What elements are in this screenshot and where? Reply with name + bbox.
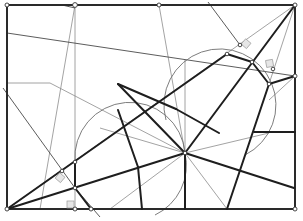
crease-fold-b bbox=[176, 109, 219, 133]
point-bottom-left bbox=[5, 207, 9, 211]
point-bottom-right bbox=[293, 207, 297, 211]
point-bottom-h bbox=[89, 207, 93, 211]
crease-corner-hub bbox=[185, 5, 295, 153]
point-left-vertex-2 bbox=[73, 186, 77, 190]
point-top-c bbox=[157, 3, 161, 7]
crease-hub-right bbox=[185, 153, 294, 188]
point-upper-foot-1 bbox=[238, 43, 242, 47]
point-bottom-g bbox=[73, 207, 77, 211]
point-top-b bbox=[73, 3, 78, 8]
point-upper-foot-2 bbox=[271, 67, 275, 71]
point-hub bbox=[183, 151, 187, 155]
crease-upper bbox=[227, 54, 252, 62]
arcs bbox=[75, 49, 276, 215]
point-left-foot bbox=[60, 169, 64, 173]
right-angle-marker-upper-2 bbox=[266, 59, 274, 67]
guide-corner-right bbox=[269, 5, 295, 84]
crease-right-bottom bbox=[227, 84, 269, 209]
long-guide-top bbox=[7, 33, 295, 76]
right-angle-marker-bottom bbox=[67, 201, 74, 208]
guide-hub-bottom bbox=[185, 153, 227, 209]
crease-main-left bbox=[7, 54, 227, 209]
right-angle-marker-upper-1 bbox=[241, 39, 251, 49]
crease-bottom-hub bbox=[7, 153, 185, 209]
crease-pattern-diagram bbox=[0, 0, 303, 221]
point-top-right bbox=[293, 3, 297, 7]
point-right-vertex bbox=[267, 82, 271, 86]
point-left-vertex-1 bbox=[73, 160, 77, 164]
guide-left-diagonal bbox=[3, 88, 75, 188]
diagram-canvas bbox=[0, 0, 303, 221]
crease-left-bottom bbox=[75, 188, 91, 209]
point-right bbox=[293, 74, 297, 78]
point-upper-vertex-2 bbox=[250, 60, 254, 64]
guide-top-foot bbox=[208, 2, 240, 45]
point-upper-vertex-1 bbox=[225, 52, 229, 56]
point-top-left bbox=[5, 3, 9, 7]
